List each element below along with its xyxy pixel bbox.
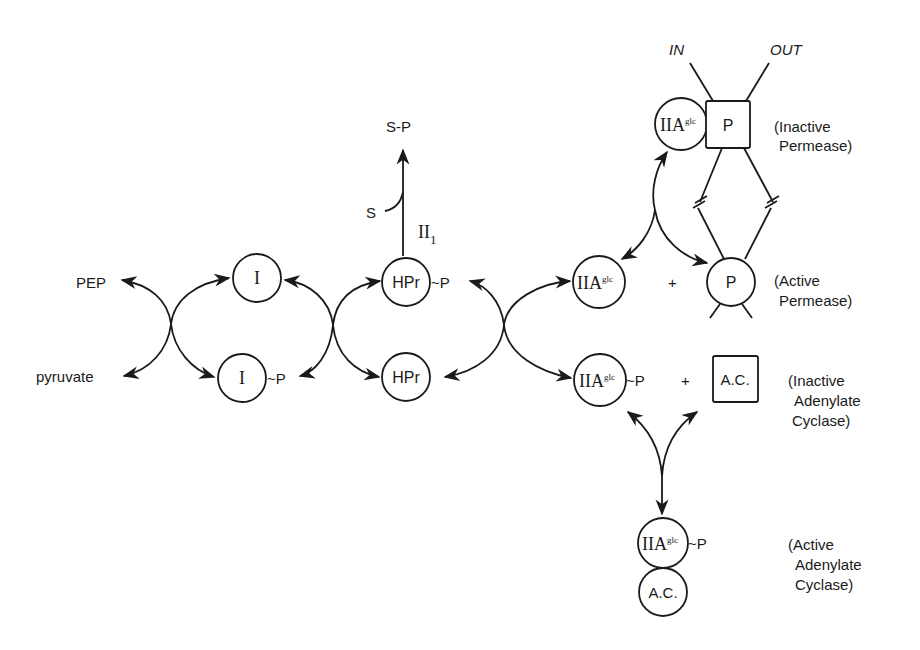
pep-to-i-arrow xyxy=(171,278,229,324)
membrane-out-label: OUT xyxy=(770,41,804,58)
enzyme-i-p-label: I xyxy=(239,368,245,388)
inactive-ac-label: A.C. xyxy=(720,371,749,388)
sugar-s-label: S xyxy=(366,204,376,221)
membrane-in-label: IN xyxy=(669,41,684,58)
enzyme-i-phospho-suffix: ~P xyxy=(267,370,286,387)
active-ac-label: A.C. xyxy=(648,584,677,601)
hpr-p-label: HPr xyxy=(392,274,420,291)
active-permease-state: (ActivePermease) xyxy=(774,272,852,309)
to-hpr-arrow xyxy=(333,325,379,377)
inactive-permease-node: P xyxy=(706,101,750,148)
to-iia-p-arrow xyxy=(504,325,571,378)
complex-to-active-permease-arrow xyxy=(655,210,707,263)
active-permease-node: P xyxy=(707,258,755,318)
plus-sign-ac: + xyxy=(681,372,690,389)
in-channel-line xyxy=(690,63,713,101)
inactive-ac-state: (InactiveAdenylateCyclase) xyxy=(788,372,861,429)
iia-glc-p-node: IIAglc ~P xyxy=(574,354,645,406)
iia-glc-node: IIAglc xyxy=(573,256,625,308)
to-i-p-right-arrow xyxy=(300,325,333,376)
enzyme-i-node: I xyxy=(233,254,281,302)
inactive-iia-glc-node: IIAglc xyxy=(655,98,707,150)
active-permease-label: P xyxy=(726,274,737,291)
to-hpr-p-arrow xyxy=(470,281,504,325)
ac-complex-to-ac-arrow xyxy=(662,412,697,476)
ac-complex-to-iia-p-arrow xyxy=(628,412,662,476)
iia-to-complex-arrow xyxy=(653,152,667,210)
i-p-to-hpr-p-arrow xyxy=(333,281,380,325)
iia-phospho-suffix: ~P xyxy=(626,372,645,389)
hpr-phospho-suffix: ~P xyxy=(431,274,450,291)
active-adenylate-cyclase-node: A.C. xyxy=(639,568,687,616)
pep-label: PEP xyxy=(76,274,106,291)
active-ac-state: (ActiveAdenylateCyclase) xyxy=(788,536,862,593)
to-iia-arrow xyxy=(504,281,570,325)
to-hpr-left-arrow xyxy=(445,325,504,377)
permease-conformation-lines xyxy=(693,148,779,259)
enzyme-i-p-node: I ~P xyxy=(218,354,286,402)
sugar-uptake-curve xyxy=(385,192,403,211)
inactive-permease-label: P xyxy=(723,117,734,134)
pep-arrow xyxy=(122,280,171,324)
pts-diagram: PEP pyruvate I I ~P HPr ~P HPr S S-P II1 xyxy=(0,0,920,650)
pyruvate-label: pyruvate xyxy=(36,368,94,385)
enzyme-ii-label: II1 xyxy=(418,222,437,247)
inactive-permease-state: (InactivePermease) xyxy=(774,118,852,154)
hpr-node: HPr xyxy=(382,353,430,401)
enzyme-ii-subscript: 1 xyxy=(430,232,437,247)
out-channel-line xyxy=(746,63,769,101)
enzyme-i-label: I xyxy=(254,268,260,288)
plus-sign-permease: + xyxy=(668,274,677,291)
to-i-p-arrow xyxy=(171,324,214,377)
hpr-p-node: HPr ~P xyxy=(382,258,450,306)
sugar-phosphate-label: S-P xyxy=(386,118,411,135)
complex-to-iia-arrow xyxy=(622,210,655,259)
active-iia-glc-p-node: IIAglc ~P xyxy=(638,518,707,568)
hpr-label: HPr xyxy=(392,369,420,386)
active-iia-phospho-suffix: ~P xyxy=(688,535,707,552)
hpr-p-to-i-arrow xyxy=(285,280,333,325)
pyruvate-arrow xyxy=(124,324,171,376)
inactive-adenylate-cyclase-node: A.C. xyxy=(713,356,758,402)
